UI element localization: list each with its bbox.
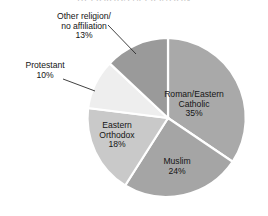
pie-chart-figure: RELIGIOUS AFFILIATION Other religion/ no… [0, 0, 268, 216]
slice-value-muslim: 24% [142, 167, 212, 177]
slice-value-other-religion: 13% [36, 31, 132, 41]
slice-value-protestant: 10% [4, 71, 86, 81]
slice-label-protestant: Protestant 10% [4, 61, 86, 80]
slice-value-roman-eastern-catholic: 35% [146, 109, 242, 119]
leader-line-protestant [63, 79, 95, 91]
slice-label-other-religion: Other religion/ no affiliation 13% [36, 12, 132, 41]
slice-label-eastern-orthodox: Eastern Orthodox 18% [80, 121, 154, 150]
slice-value-eastern-orthodox: 18% [80, 140, 154, 150]
slice-label-roman-eastern-catholic: Roman/Eastern Catholic 35% [146, 90, 242, 119]
slice-label-muslim: Muslim 24% [142, 157, 212, 176]
